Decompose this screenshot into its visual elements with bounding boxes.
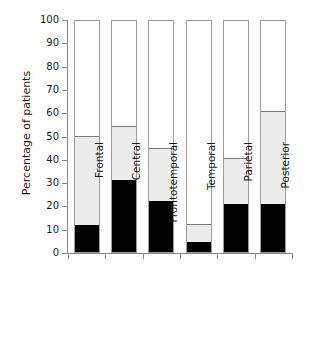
y-tick-label: 100	[19, 15, 59, 25]
y-tick-label: 30	[19, 178, 59, 188]
y-tick-label: 20	[19, 201, 59, 211]
chart-figure: Percentage of patients 01020304050607080…	[0, 0, 310, 350]
y-tick-label: 70	[19, 85, 59, 95]
y-tick	[62, 183, 67, 184]
y-tick	[62, 67, 67, 68]
y-tick-label: 50	[19, 132, 59, 142]
x-label-frontal: Frontal	[92, 142, 106, 262]
y-tick	[62, 137, 67, 138]
x-label-central: Central	[129, 142, 143, 262]
y-tick-label: 80	[19, 62, 59, 72]
y-tick	[62, 160, 67, 161]
y-tick-label: 0	[19, 248, 59, 258]
y-tick	[62, 113, 67, 114]
x-label-posterior: Posterior	[278, 142, 292, 262]
y-tick	[62, 230, 67, 231]
x-label-parietal: Parietal	[241, 142, 255, 262]
x-tick	[68, 254, 69, 259]
y-tick	[62, 90, 67, 91]
x-label-frontotemporal: Frontotemporal	[166, 142, 180, 262]
y-tick	[62, 20, 67, 21]
x-tick	[180, 254, 181, 259]
y-tick-label: 10	[19, 225, 59, 235]
y-tick-label: 90	[19, 38, 59, 48]
y-tick-label: 40	[19, 155, 59, 165]
y-tick	[62, 253, 67, 254]
y-tick	[62, 43, 67, 44]
x-tick	[292, 254, 293, 259]
x-label-temporal: Temporal	[204, 142, 218, 262]
y-tick	[62, 206, 67, 207]
y-tick-label: 60	[19, 108, 59, 118]
